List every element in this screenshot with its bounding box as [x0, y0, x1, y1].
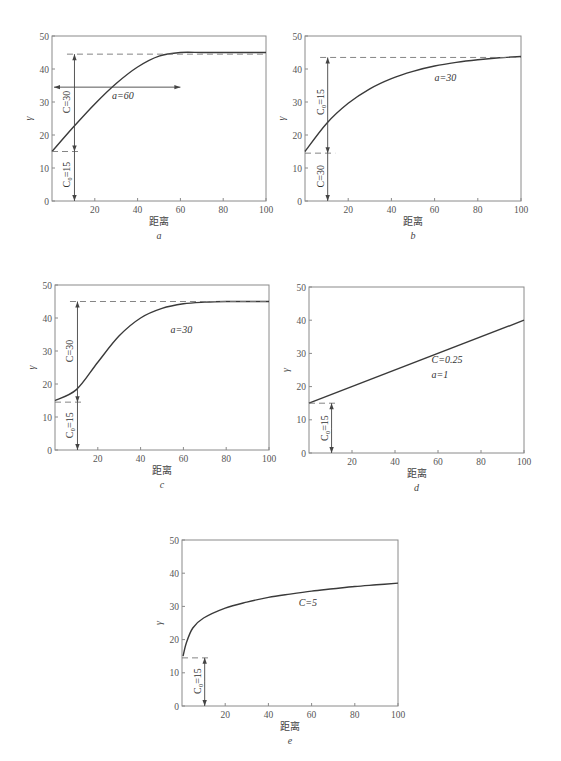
variogram-curve — [52, 52, 266, 151]
x-tick-label: 40 — [264, 710, 274, 720]
x-axis-label: 距离 — [149, 215, 169, 227]
y-tick-label: 50 — [297, 283, 307, 293]
y-tick-label: 30 — [43, 347, 53, 357]
x-tick-label: 40 — [387, 205, 397, 215]
y-tick-label: 20 — [43, 380, 53, 390]
y-tick-label: 0 — [47, 446, 52, 456]
x-tick-label: 80 — [350, 710, 360, 720]
y-tick-label: 40 — [170, 569, 180, 579]
plot-frame — [182, 540, 398, 706]
plot-frame — [52, 36, 266, 201]
range-annotation: a=30 — [435, 72, 457, 83]
plot-frame — [305, 36, 521, 201]
x-tick-label: 80 — [221, 454, 231, 464]
plot-frame — [309, 287, 524, 453]
chart-panel-a: 0102030405020406080100距离γaC=30C₀=15a=60 — [23, 32, 273, 242]
y-axis-label: γ — [153, 620, 164, 625]
y-tick-label: 50 — [40, 32, 50, 42]
panel-label: d — [414, 482, 420, 493]
y-tick-label: 40 — [43, 314, 53, 324]
x-tick-label: 100 — [514, 205, 529, 215]
variogram-curve — [183, 583, 398, 656]
y-tick-label: 20 — [297, 382, 307, 392]
nugget-annotation: C₀=15 — [315, 89, 326, 115]
x-tick-label: 100 — [262, 454, 277, 464]
x-axis-label: 距离 — [407, 467, 427, 479]
y-tick-label: 30 — [297, 349, 307, 359]
y-tick-label: 20 — [40, 131, 50, 141]
y-axis-label: γ — [23, 115, 34, 120]
y-tick-label: 50 — [43, 281, 53, 291]
sill-annotation: C=30 — [315, 165, 326, 187]
range-annotation: a=60 — [112, 90, 134, 101]
y-axis-label: γ — [276, 115, 287, 120]
nugget-annotation: C₀=15 — [64, 412, 75, 438]
x-tick-label: 100 — [391, 710, 406, 720]
range-annotation: a=1 — [432, 369, 449, 380]
x-axis-label: 距离 — [403, 215, 423, 227]
nugget-annotation: C₀=15 — [319, 415, 330, 441]
chart-panel-d: 0102030405020406080100距离γdC₀=15C=0.25a=1 — [280, 283, 531, 494]
y-tick-label: 30 — [293, 98, 303, 108]
y-tick-label: 30 — [170, 602, 180, 612]
y-tick-label: 10 — [43, 413, 53, 423]
x-tick-label: 40 — [133, 205, 143, 215]
variogram-curve — [305, 56, 521, 151]
x-tick-label: 20 — [90, 205, 100, 215]
y-axis-label: γ — [26, 364, 37, 369]
x-tick-label: 60 — [307, 710, 317, 720]
x-tick-label: 80 — [218, 205, 228, 215]
coefficient-annotation: C=5 — [299, 597, 317, 608]
y-tick-label: 40 — [40, 65, 50, 75]
panel-label: a — [157, 230, 162, 241]
y-tick-label: 30 — [40, 98, 50, 108]
x-tick-label: 60 — [430, 205, 440, 215]
x-tick-label: 60 — [176, 205, 186, 215]
y-tick-label: 50 — [293, 32, 303, 42]
y-tick-label: 10 — [297, 415, 307, 425]
chart-panel-b: 0102030405020406080100距离γbC₀=15C=30a=30 — [276, 32, 528, 242]
variogram-curve — [55, 301, 269, 400]
variogram-figure: 0102030405020406080100距离γaC=30C₀=15a=600… — [0, 0, 561, 761]
x-axis-label: 距离 — [152, 464, 172, 476]
plot-frame — [55, 285, 269, 450]
sill-annotation: C=30 — [61, 91, 72, 113]
y-tick-label: 20 — [170, 635, 180, 645]
y-axis-label: γ — [280, 367, 291, 372]
y-tick-label: 0 — [174, 702, 179, 712]
x-tick-label: 40 — [136, 454, 146, 464]
panel-label: e — [288, 735, 293, 746]
y-tick-label: 40 — [297, 316, 307, 326]
y-tick-label: 10 — [40, 164, 50, 174]
nugget-annotation: C₀=15 — [192, 668, 203, 694]
y-tick-label: 0 — [44, 197, 49, 207]
y-tick-label: 0 — [297, 197, 302, 207]
chart-panel-e: 0102030405020406080100距离γeC₀=15C=5 — [153, 536, 405, 747]
x-tick-label: 60 — [433, 457, 443, 467]
x-tick-label: 60 — [179, 454, 189, 464]
y-tick-label: 20 — [293, 131, 303, 141]
sill-annotation: C=30 — [64, 340, 75, 362]
y-tick-label: 10 — [293, 164, 303, 174]
nugget-annotation: C₀=15 — [61, 162, 72, 188]
x-axis-label: 距离 — [280, 720, 300, 732]
x-tick-label: 80 — [473, 205, 483, 215]
x-tick-label: 20 — [347, 457, 357, 467]
x-tick-label: 80 — [476, 457, 486, 467]
slope-annotation: C=0.25 — [432, 354, 463, 365]
range-annotation: a=30 — [171, 324, 193, 335]
y-tick-label: 0 — [301, 449, 306, 459]
y-tick-label: 40 — [293, 65, 303, 75]
x-tick-label: 20 — [93, 454, 103, 464]
chart-panel-c: 0102030405020406080100距离γcC=30C₀=15a=30 — [26, 281, 276, 491]
x-tick-label: 100 — [259, 205, 274, 215]
x-tick-label: 40 — [390, 457, 400, 467]
y-tick-label: 50 — [170, 536, 180, 546]
panel-label: b — [411, 230, 416, 241]
y-tick-label: 10 — [170, 668, 180, 678]
panel-label: c — [160, 479, 165, 490]
x-tick-label: 20 — [220, 710, 230, 720]
x-tick-label: 100 — [517, 457, 532, 467]
variogram-curve — [309, 320, 524, 403]
x-tick-label: 20 — [343, 205, 353, 215]
